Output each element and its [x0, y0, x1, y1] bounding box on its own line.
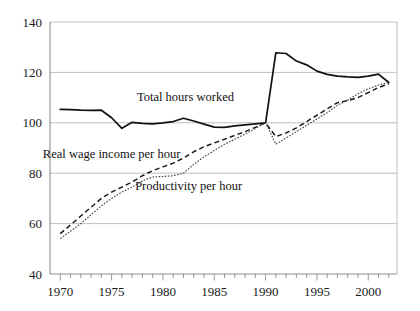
y-tick-label-60: 60	[29, 216, 42, 231]
annotation-productivity-per-hour: Productivity per hour	[135, 179, 243, 193]
x-tick-label-1970: 1970	[47, 284, 73, 299]
y-tick-label-100: 100	[23, 115, 43, 130]
annotation-real-wage-income-per-hour: Real wage income per hour	[43, 147, 181, 161]
x-tick-label-1975: 1975	[99, 284, 125, 299]
y-tick-label-140: 140	[23, 15, 43, 30]
x-tick-label-1990: 1990	[253, 284, 279, 299]
chart-container: 140120100806040 197019751980198519901995…	[0, 0, 420, 311]
y-tick-label-40: 40	[29, 267, 42, 282]
annotation-total-hours-worked: Total hours worked	[137, 90, 235, 104]
data-series	[60, 53, 389, 239]
x-tick-label-2000: 2000	[355, 284, 381, 299]
x-tick-label-1995: 1995	[304, 284, 330, 299]
y-tick-label-80: 80	[29, 166, 42, 181]
series-annotations: Total hours workedReal wage income per h…	[43, 90, 243, 192]
x-axis-tick-labels: 1970197519801985199019952000	[47, 284, 381, 299]
line-chart: 140120100806040 197019751980198519901995…	[0, 0, 420, 311]
x-axis-ticks	[60, 274, 389, 281]
x-tick-label-1985: 1985	[201, 284, 227, 299]
gridlines	[50, 22, 397, 224]
x-tick-label-1980: 1980	[150, 284, 176, 299]
y-axis-tick-labels: 140120100806040	[23, 15, 43, 282]
y-tick-label-120: 120	[23, 65, 43, 80]
